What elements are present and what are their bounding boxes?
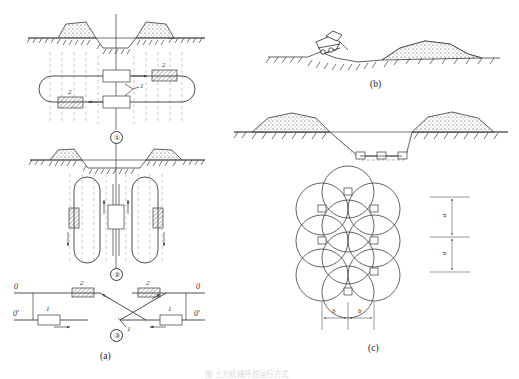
- machine-label-2-left-scheme3: 2: [80, 280, 84, 287]
- figure-canvas: ① ② ③ 1 2 2 0 0' 0 0' 1 2 2 1 1 a a b b …: [0, 0, 519, 379]
- machine-label-1-left-scheme3: 1: [46, 306, 50, 313]
- machine-label-1-scheme1: 1: [140, 83, 144, 90]
- panel-a-scheme3: [14, 288, 205, 327]
- machine-label-1-right-scheme3: 1: [168, 306, 172, 313]
- dimension-label-a-lower: a: [441, 252, 448, 256]
- axis-label-0-top-right: 0: [196, 283, 200, 291]
- panel-c-swing-circles: [296, 166, 470, 330]
- dimension-label-b-right: b: [358, 308, 362, 315]
- panel-c-section: [234, 112, 508, 160]
- axis-label-0prime-bottom-left: 0': [13, 310, 19, 318]
- panel-caption-a: (a): [100, 352, 111, 362]
- scheme-marker-3: ③: [110, 329, 123, 342]
- dozer-machine: [316, 31, 348, 54]
- machine-label-2-right-scheme1: 2: [162, 62, 166, 69]
- crossing-callout-label: 1: [127, 326, 131, 333]
- scheme-marker-2: ②: [110, 268, 123, 281]
- panel-b-section: [266, 31, 500, 70]
- diagram-vector-layer: [0, 0, 519, 379]
- machine-label-2-left-scheme1: 2: [68, 89, 72, 96]
- panel-caption-b: (b): [370, 80, 381, 90]
- scheme-marker-1: ①: [110, 131, 123, 144]
- panel-a-scheme1-plan-loop: [39, 70, 195, 108]
- panel-caption-c: (c): [368, 344, 379, 354]
- dimension-label-a-upper: a: [441, 214, 448, 218]
- figure-caption: 图 土方机械开挖运行方式: [205, 368, 289, 379]
- dimension-label-b-left: b: [332, 308, 336, 315]
- axis-label-0-top-left: 0: [14, 283, 18, 291]
- axis-label-0prime-bottom-right: 0': [194, 310, 200, 318]
- machine-label-2-right-scheme3: 2: [146, 280, 150, 287]
